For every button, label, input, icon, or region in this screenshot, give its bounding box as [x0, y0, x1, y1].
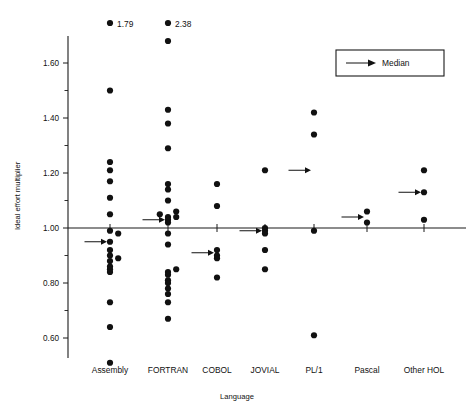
data-point [107, 299, 113, 305]
data-point [421, 189, 427, 195]
median-arrows-group [85, 167, 422, 256]
data-point [165, 20, 171, 26]
data-point [107, 195, 113, 201]
data-point [165, 107, 171, 113]
data-point [262, 266, 268, 272]
data-point [364, 219, 370, 225]
data-point [165, 186, 171, 192]
data-point [165, 219, 171, 225]
data-point [165, 145, 171, 151]
y-axis-tick-labels: 0.600.801.001.201.401.60 [43, 59, 59, 343]
data-point [214, 255, 220, 261]
data-point [165, 272, 171, 278]
y-tick-label: 1.20 [43, 169, 59, 178]
data-point [107, 228, 113, 234]
median-arrow-head-assembly [101, 239, 107, 245]
data-point [165, 291, 171, 297]
median-arrow-head-jovial [256, 228, 262, 234]
data-point [165, 181, 171, 187]
y-axis-title: Ideal effort multiplier [13, 161, 22, 230]
legend: Median [336, 50, 444, 76]
annotation-fortran: 2.38 [175, 19, 192, 29]
median-arrow-head-other-hol [415, 189, 421, 195]
data-point [107, 239, 113, 245]
data-point [107, 360, 113, 366]
data-point [214, 274, 220, 280]
data-point [262, 230, 268, 236]
data-point [107, 167, 113, 173]
data-point [107, 324, 113, 330]
y-axis-ticks [63, 63, 68, 338]
x-axis-tick-labels: AssemblyFORTRANCOBOLJOVIALPL/1PascalOthe… [92, 365, 445, 375]
x-tick-label-assembly: Assembly [92, 365, 129, 375]
data-point [157, 211, 163, 217]
data-point [107, 252, 113, 258]
x-tick-label-other-hol: Other HOL [404, 365, 445, 375]
data-point [364, 208, 370, 214]
data-point [107, 211, 113, 217]
data-point [311, 131, 317, 137]
data-point [173, 208, 179, 214]
data-point [173, 266, 179, 272]
data-point [421, 167, 427, 173]
x-tick-label-pl-1: PL/1 [305, 365, 323, 375]
median-arrow-head-fortran [159, 217, 165, 223]
data-point [214, 203, 220, 209]
data-point [107, 269, 113, 275]
data-point [107, 87, 113, 93]
scatter-plot-figure: 0.600.801.001.201.401.60 AssemblyFORTRAN… [0, 0, 474, 416]
data-point [421, 217, 427, 223]
y-tick-label: 1.40 [43, 114, 59, 123]
data-point [173, 214, 179, 220]
y-tick-label: 1.00 [43, 224, 59, 233]
median-arrow-head-cobol [208, 250, 214, 256]
annotation-assembly: 1.79 [117, 19, 134, 29]
legend-label-median: Median [382, 58, 410, 68]
y-tick-label: 1.60 [43, 59, 59, 68]
data-point [165, 120, 171, 126]
data-point [262, 247, 268, 253]
y-tick-label: 0.60 [43, 334, 59, 343]
x-tick-label-fortran: FORTRAN [148, 365, 188, 375]
data-point [165, 197, 171, 203]
data-point [165, 241, 171, 247]
data-point [165, 230, 171, 236]
x-tick-label-cobol: COBOL [202, 365, 232, 375]
data-point [107, 20, 113, 26]
value-annotations-group: 1.792.38 [117, 19, 192, 29]
x-axis-title: Language [220, 392, 254, 401]
data-point [115, 255, 121, 261]
data-point [214, 247, 220, 253]
data-point [165, 285, 171, 291]
median-arrow-head-pl-1 [305, 167, 311, 173]
data-point [262, 167, 268, 173]
data-point [311, 228, 317, 234]
x-tick-label-jovial: JOVIAL [251, 365, 280, 375]
y-tick-label: 0.80 [43, 279, 59, 288]
data-point [311, 109, 317, 115]
data-point [165, 38, 171, 44]
data-point [107, 247, 113, 253]
median-arrow-head-pascal [358, 214, 364, 220]
data-point [165, 299, 171, 305]
data-point [107, 178, 113, 184]
data-point [107, 258, 113, 264]
data-point [115, 230, 121, 236]
data-point [165, 280, 171, 286]
data-point [107, 159, 113, 165]
data-point [311, 332, 317, 338]
data-point [214, 181, 220, 187]
ideal-effort-multiplier-scatter: 0.600.801.001.201.401.60 AssemblyFORTRAN… [0, 0, 474, 416]
data-point [165, 316, 171, 322]
x-tick-label-pascal: Pascal [354, 365, 379, 375]
